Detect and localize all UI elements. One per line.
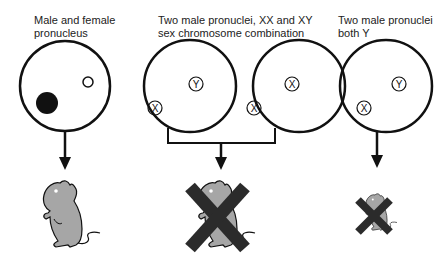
- zygote-xy: X X: [247, 40, 345, 132]
- svg-text:X: X: [289, 79, 296, 90]
- diagram-canvas: Y X X X Y X: [0, 0, 436, 264]
- svg-text:X: X: [361, 103, 368, 114]
- arrow-down-icon: [215, 157, 227, 170]
- zygote-yy: Y X: [340, 40, 432, 132]
- svg-text:Y: Y: [193, 79, 200, 90]
- female-pronucleus-icon: [36, 92, 58, 114]
- svg-text:Y: Y: [396, 79, 403, 90]
- arrow-down-icon: [371, 155, 383, 168]
- mouse-viable-icon: [43, 181, 100, 247]
- svg-text:X: X: [251, 103, 258, 114]
- mouse-not-viable-icon: [190, 181, 255, 248]
- svg-text:X: X: [152, 103, 159, 114]
- male-pronucleus-icon: [83, 77, 93, 87]
- arrow-down-icon: [59, 157, 71, 170]
- zygote-xx: Y X: [144, 40, 236, 132]
- zygote-male-female: [20, 41, 110, 131]
- mouse-small-not-viable-icon: [358, 194, 397, 232]
